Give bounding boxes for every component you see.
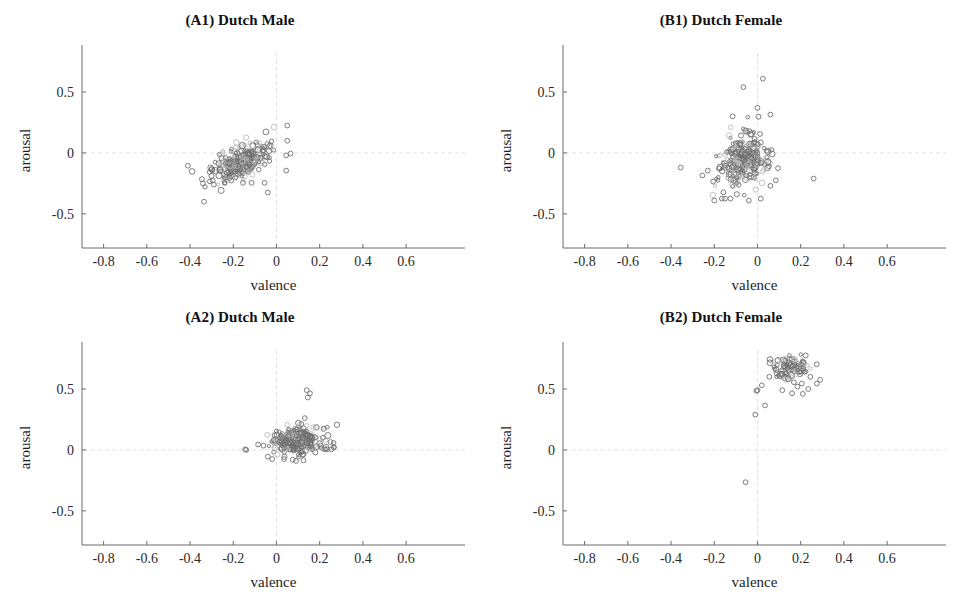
data-point bbox=[331, 441, 336, 446]
scatter-points bbox=[185, 123, 292, 204]
x-axis-title: valence bbox=[251, 277, 297, 293]
y-tick-label: 0 bbox=[67, 146, 74, 161]
data-point-outlier bbox=[790, 391, 795, 396]
y-tick-label: 0 bbox=[548, 443, 555, 458]
data-point-outlier bbox=[758, 196, 763, 201]
panel-B2: (B2) Dutch Female -0.8-0.6-0.4-0.200.20.… bbox=[481, 297, 961, 594]
x-tick-label: 0.6 bbox=[397, 551, 415, 566]
data-point-outlier bbox=[712, 198, 717, 203]
y-axis-title: arousal bbox=[498, 426, 514, 469]
scatter-points bbox=[243, 388, 340, 463]
data-point-outlier bbox=[818, 377, 823, 382]
data-point-outlier bbox=[678, 165, 683, 170]
x-axis-title: valence bbox=[732, 277, 778, 293]
reference-lines bbox=[84, 53, 465, 246]
data-point bbox=[244, 135, 249, 140]
y-tick-label: 0 bbox=[67, 443, 74, 458]
data-point bbox=[742, 193, 746, 197]
data-point-outlier bbox=[723, 196, 728, 201]
data-point-outlier bbox=[811, 176, 816, 181]
data-point-outlier bbox=[249, 180, 254, 185]
data-point-outlier bbox=[768, 112, 773, 117]
y-tick-label: -0.5 bbox=[52, 504, 74, 519]
data-point bbox=[809, 367, 813, 371]
x-tick-label: -0.4 bbox=[660, 551, 682, 566]
x-tick-label: 0.2 bbox=[792, 551, 810, 566]
data-point bbox=[296, 420, 301, 425]
data-point bbox=[814, 362, 819, 367]
x-tick-label: -0.4 bbox=[179, 551, 201, 566]
x-tick-label: -0.8 bbox=[574, 551, 596, 566]
data-point bbox=[334, 422, 339, 427]
plot-B2: -0.8-0.6-0.4-0.200.20.40.60.50-0.5valenc… bbox=[481, 297, 961, 594]
data-point-outlier bbox=[767, 374, 772, 379]
axes bbox=[563, 342, 946, 545]
data-point bbox=[803, 353, 808, 358]
y-axis-title: arousal bbox=[17, 426, 33, 469]
y-axis-title: arousal bbox=[498, 129, 514, 172]
data-point-outlier bbox=[746, 198, 751, 203]
x-tick-label: 0.4 bbox=[354, 254, 372, 269]
x-tick-label: -0.6 bbox=[136, 254, 158, 269]
data-point-outlier bbox=[301, 458, 306, 463]
data-point-outlier bbox=[799, 381, 804, 386]
x-tick-label: 0.6 bbox=[878, 254, 896, 269]
data-point-outlier bbox=[730, 114, 735, 119]
x-tick-label: 0.2 bbox=[792, 254, 810, 269]
data-point-outlier bbox=[743, 480, 748, 485]
data-point-outlier bbox=[321, 435, 326, 440]
x-tick-label: -0.2 bbox=[222, 254, 244, 269]
x-tick-label: 0.2 bbox=[311, 254, 329, 269]
data-point-outlier bbox=[185, 163, 190, 168]
x-tick-label: 0.6 bbox=[878, 551, 896, 566]
y-tick-label: 0.5 bbox=[538, 85, 556, 100]
data-point bbox=[218, 187, 224, 193]
reference-lines bbox=[84, 350, 465, 543]
data-point-outlier bbox=[780, 388, 785, 393]
data-point-outlier bbox=[800, 391, 805, 396]
data-point bbox=[734, 192, 739, 197]
data-point-outlier bbox=[741, 85, 746, 90]
plot-B1: -0.8-0.6-0.4-0.200.20.40.60.50-0.5valenc… bbox=[481, 0, 961, 297]
panel-B1: (B1) Dutch Female -0.8-0.6-0.4-0.200.20.… bbox=[481, 0, 961, 297]
x-tick-label: 0 bbox=[273, 254, 280, 269]
data-point-outlier bbox=[728, 196, 733, 201]
data-point bbox=[756, 114, 761, 119]
y-axis-ticks: 0.50-0.5 bbox=[52, 382, 86, 519]
data-point-outlier bbox=[808, 374, 813, 379]
data-point-outlier bbox=[711, 179, 716, 184]
data-point bbox=[759, 180, 765, 186]
data-point bbox=[792, 380, 797, 385]
data-point-outlier bbox=[776, 166, 781, 171]
data-point-outlier bbox=[768, 183, 773, 188]
data-point-outlier bbox=[261, 443, 266, 448]
x-tick-label: -0.2 bbox=[222, 551, 244, 566]
data-point-outlier bbox=[308, 391, 313, 396]
data-point-outlier bbox=[328, 440, 333, 445]
data-point-outlier bbox=[806, 387, 811, 392]
data-point-outlier bbox=[760, 76, 765, 81]
data-point-outlier bbox=[241, 180, 246, 185]
axes bbox=[82, 45, 465, 248]
y-tick-label: -0.5 bbox=[533, 207, 555, 222]
data-point bbox=[302, 416, 307, 421]
x-axis-title: valence bbox=[251, 574, 297, 590]
x-tick-label: 0 bbox=[754, 551, 761, 566]
y-axis-title: arousal bbox=[17, 129, 33, 172]
y-tick-label: -0.5 bbox=[533, 504, 555, 519]
data-point bbox=[263, 129, 269, 135]
x-tick-label: -0.6 bbox=[617, 551, 639, 566]
data-point bbox=[275, 452, 280, 457]
y-axis-ticks: 0.50-0.5 bbox=[533, 382, 567, 519]
data-point bbox=[256, 167, 261, 172]
reference-lines bbox=[565, 53, 946, 246]
data-point bbox=[265, 432, 270, 437]
x-tick-label: 0.4 bbox=[354, 551, 372, 566]
x-tick-label: -0.8 bbox=[93, 254, 115, 269]
plot-A1: -0.8-0.6-0.4-0.200.20.40.60.50-0.5valenc… bbox=[0, 0, 480, 297]
data-point-outlier bbox=[265, 190, 270, 195]
x-tick-label: -0.2 bbox=[703, 254, 725, 269]
x-tick-label: 0.4 bbox=[835, 551, 853, 566]
y-tick-label: 0 bbox=[548, 146, 555, 161]
y-axis-ticks: 0.50-0.5 bbox=[52, 85, 86, 222]
